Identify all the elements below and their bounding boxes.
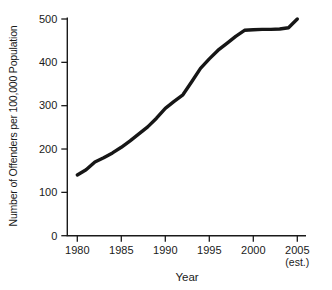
x-tick-label: 1995 [197,244,221,256]
y-axis-title: Number of Offenders per 100,000 Populati… [7,26,19,227]
offenders-trend-line [77,19,297,175]
x-tick-label: 1980 [65,244,89,256]
y-tick-label: 300 [39,99,57,111]
y-tick-label: 200 [39,143,57,155]
x-axis-title: Year [175,271,198,283]
y-tick-label: 0 [51,230,57,242]
chart-canvas: 0100200300400500198019851990199520002005… [0,0,332,290]
axes [67,18,306,236]
y-tick-label: 100 [39,186,57,198]
y-tick-label: 500 [39,13,57,25]
line-chart-figure: 0100200300400500198019851990199520002005… [0,0,332,290]
x-tick-label: 1990 [153,244,177,256]
x-tick-label: 1985 [109,244,133,256]
y-tick-label: 400 [39,56,57,68]
x-tick-label: 2005 [285,244,309,256]
x-tick-estimate-note: (est.) [285,256,309,268]
x-tick-label: 2000 [241,244,265,256]
